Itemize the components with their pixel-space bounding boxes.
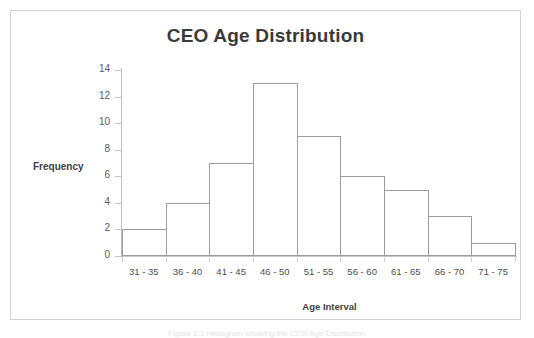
x-axis-tick-label: 66 - 70 (428, 266, 472, 277)
y-axis-tick-label: 14 (86, 64, 110, 74)
x-axis-tick-label: 51 - 55 (297, 266, 341, 277)
y-axis-tick-mark (115, 97, 121, 98)
x-axis-title: Age Interval (133, 301, 526, 312)
x-axis-tick-mark (253, 257, 254, 262)
y-axis-tick-label: 10 (86, 117, 110, 127)
plot-area (122, 70, 515, 256)
x-axis-tick-mark (471, 257, 472, 262)
x-axis-tick-label: 41 - 45 (209, 266, 253, 277)
x-axis-tick-mark (209, 257, 210, 262)
y-axis-tick-mark (115, 229, 121, 230)
histogram-bar (471, 243, 516, 256)
y-axis-tick-labels: 02468101214 (86, 0, 110, 337)
y-axis-tick-mark (115, 123, 121, 124)
x-axis-tick-labels: 31 - 3536 - 4041 - 4546 - 5051 - 5556 - … (122, 266, 515, 282)
histogram-bar (166, 203, 211, 256)
x-axis-tick-label: 36 - 40 (166, 266, 210, 277)
y-axis-tick-label: 6 (86, 170, 110, 180)
x-axis-tick-mark (166, 257, 167, 262)
y-axis-tick-mark (115, 256, 121, 257)
figure-caption: Figure 2.1 Histogram showing the CEO Age… (0, 329, 534, 338)
x-axis-tick-mark (297, 257, 298, 262)
histogram-bar (209, 163, 254, 256)
histogram-bar (384, 190, 429, 256)
y-axis-tick-mark (115, 203, 121, 204)
y-axis-tick-mark (115, 176, 121, 177)
y-axis-tick-mark (115, 70, 121, 71)
y-axis-tick-label: 12 (86, 91, 110, 101)
y-axis-tick-label: 8 (86, 144, 110, 154)
y-axis-tick-label: 4 (86, 197, 110, 207)
x-axis-tick-mark (384, 257, 385, 262)
y-axis-tick-label: 2 (86, 223, 110, 233)
x-axis-tick-label: 56 - 60 (340, 266, 384, 277)
y-axis-tick-mark (115, 150, 121, 151)
x-axis-tick-label: 61 - 65 (384, 266, 428, 277)
x-axis-tick-label: 71 - 75 (471, 266, 515, 277)
x-axis-tick-mark (515, 257, 516, 262)
x-axis-tick-mark (340, 257, 341, 262)
histogram-bar (122, 229, 167, 256)
histogram-bar (253, 83, 298, 256)
histogram-bar (428, 216, 473, 256)
x-axis-tick-mark (122, 257, 123, 262)
x-axis-line (115, 256, 517, 257)
histogram-bar (340, 176, 385, 256)
x-axis-tick-label: 31 - 35 (122, 266, 166, 277)
x-axis-tick-mark (428, 257, 429, 262)
histogram-bar (297, 136, 342, 256)
y-axis-tick-label: 0 (86, 250, 110, 260)
y-axis-title: Frequency (33, 161, 84, 172)
x-axis-tick-label: 46 - 50 (253, 266, 297, 277)
